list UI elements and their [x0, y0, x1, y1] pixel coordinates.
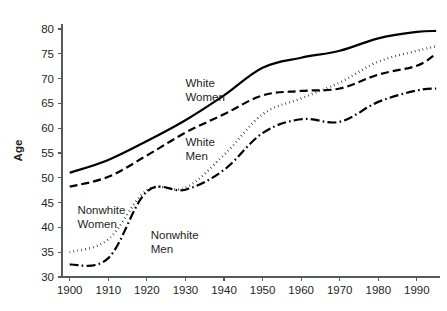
y-tick-label: 75: [41, 48, 54, 60]
series-label-line1: Nonwhite: [151, 229, 199, 241]
x-tick-label: 1930: [173, 284, 199, 296]
y-tick-label: 30: [41, 271, 54, 283]
x-tick-label: 1950: [250, 284, 276, 296]
x-tick-label: 1990: [404, 284, 430, 296]
x-tick-label: 1980: [365, 284, 391, 296]
chart-axes: [62, 24, 440, 277]
series-label-nonwhite-men: NonwhiteMen: [151, 229, 199, 255]
y-tick-label: 65: [41, 97, 54, 109]
y-axis-title: Age: [12, 140, 24, 162]
series-label-line2: Men: [151, 243, 173, 255]
series-annotation-labels: WhiteWomenWhiteMenNonwhiteWomenNonwhiteM…: [77, 77, 224, 255]
series-label-line1: Nonwhite: [77, 204, 125, 216]
chart-container: 3035404550556065707580 19001910192019301…: [0, 0, 447, 311]
series-line-nonwhite-men: [70, 88, 436, 265]
y-tick-label: 80: [41, 23, 54, 35]
series-label-line2: Men: [185, 150, 207, 162]
x-tick-label: 1940: [211, 284, 237, 296]
y-tick-label: 50: [41, 172, 54, 184]
life-expectancy-line-chart: 3035404550556065707580 19001910192019301…: [0, 0, 447, 311]
x-tick-label: 1900: [57, 284, 83, 296]
series-label-line1: White: [185, 77, 214, 89]
series-label-line2: Women: [77, 218, 116, 230]
y-tick-label: 70: [41, 73, 54, 85]
x-tick-label: 1970: [327, 284, 353, 296]
series-label-nonwhite-women: NonwhiteWomen: [77, 204, 125, 230]
chart-series-group: [70, 31, 436, 266]
series-label-line1: White: [185, 136, 214, 148]
x-tick-label: 1910: [95, 284, 121, 296]
x-axis-ticks: 1900191019201930194019501960197019801990: [57, 277, 430, 296]
series-label-white-women: WhiteWomen: [185, 77, 224, 103]
series-line-nonwhite-women: [70, 46, 436, 252]
x-tick-label: 1960: [288, 284, 314, 296]
x-tick-label: 1920: [134, 284, 160, 296]
y-tick-label: 55: [41, 147, 54, 159]
y-tick-label: 40: [41, 221, 54, 233]
series-label-line2: Women: [185, 91, 224, 103]
y-tick-label: 45: [41, 197, 54, 209]
y-tick-label: 60: [41, 122, 54, 134]
y-axis-ticks: 3035404550556065707580: [41, 23, 62, 283]
y-tick-label: 35: [41, 246, 54, 258]
series-label-white-men: WhiteMen: [185, 136, 214, 162]
